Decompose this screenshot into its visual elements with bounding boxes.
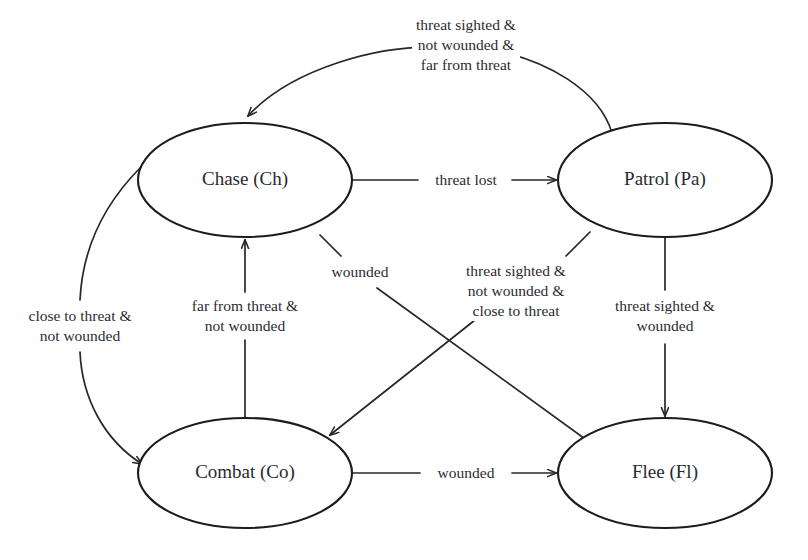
edge-path-segment (377, 288, 592, 444)
edge-chase-to-combat (80, 167, 142, 464)
node-flee-label: Flee (Fl) (632, 461, 698, 483)
state-diagram: Chase (Ch) Patrol (Pa) Combat (Co) Flee … (0, 0, 808, 560)
node-chase-label: Chase (Ch) (202, 168, 288, 190)
edge-path-segment (248, 47, 450, 116)
node-chase[interactable]: Chase (Ch) (138, 123, 352, 237)
edge-patrol-to-chase (248, 47, 612, 133)
edge-chase-to-flee (320, 235, 592, 444)
edge-path-segment (80, 167, 141, 300)
node-patrol-label: Patrol (Pa) (624, 168, 706, 190)
edge-path-segment (330, 320, 475, 435)
node-flee[interactable]: Flee (Fl) (558, 418, 772, 528)
node-combat[interactable]: Combat (Co) (138, 418, 352, 528)
edge-path-segment (80, 352, 142, 464)
edge-path-segment (566, 232, 590, 256)
edge-patrol-to-combat (330, 232, 590, 435)
diagram-canvas: Chase (Ch) Patrol (Pa) Combat (Co) Flee … (0, 0, 808, 560)
node-patrol[interactable]: Patrol (Pa) (558, 123, 772, 237)
edge-path-segment (482, 48, 612, 133)
node-combat-label: Combat (Co) (195, 461, 295, 483)
edge-path-segment (320, 235, 341, 256)
